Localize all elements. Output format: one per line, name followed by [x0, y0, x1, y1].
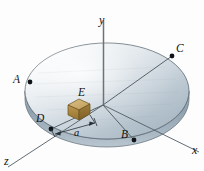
point-label-E: E [78, 87, 85, 99]
dimension-label-a: a [74, 128, 79, 139]
axis-label-z: z [4, 155, 9, 167]
point-label-C: C [176, 43, 184, 55]
point-marker-A [28, 80, 33, 85]
figure-canvas: y x z A B C D E a [0, 0, 204, 171]
axis-label-y: y [99, 14, 104, 26]
point-label-A: A [13, 74, 20, 86]
point-label-D: D [36, 113, 44, 125]
point-marker-B [132, 138, 137, 143]
point-marker-C [170, 54, 175, 59]
disk-top-surface [25, 43, 189, 139]
axis-label-x: x [192, 144, 197, 156]
point-label-B: B [121, 129, 128, 141]
